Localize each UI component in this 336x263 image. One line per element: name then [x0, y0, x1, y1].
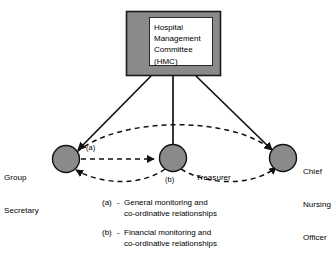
- legend-a-line-2: co-ordinative relationships: [124, 209, 217, 220]
- hmc-line-2: Management: [154, 33, 212, 44]
- legend-item-a: (a) - General monitoring and co-ordinati…: [102, 198, 282, 219]
- cno-line-1: Chief: [303, 166, 331, 177]
- node-label-chief-nursing-officer: Chief Nursing Officer: [303, 144, 331, 263]
- group-secretary-line-1: Group: [4, 172, 39, 183]
- legend-key-b: (b): [102, 228, 117, 239]
- node-label-treasurer: Treasurer: [196, 154, 231, 202]
- legend-dash-b: -: [117, 228, 124, 239]
- legend-text-a: General monitoring and co-ordinative rel…: [124, 198, 217, 219]
- hmc-line-1: Hospital: [154, 22, 212, 33]
- node-treasurer: [160, 145, 187, 172]
- legend: (a) - General monitoring and co-ordinati…: [102, 198, 282, 258]
- legend-text-b: Financial monitoring and co-ordinative r…: [124, 228, 217, 249]
- cno-line-2: Nursing: [303, 199, 331, 210]
- hmc-line-4: (HMC): [154, 56, 212, 67]
- edge-hmc-to-chief-nursing-officer: [196, 76, 272, 150]
- legend-a-line-1: General monitoring and: [124, 198, 217, 209]
- node-chief-nursing-officer: [270, 145, 297, 172]
- edge-lower-arc-treasurer-to-gs: [76, 169, 165, 182]
- edge-hmc-to-group-secretary: [78, 76, 151, 150]
- hmc-line-3: Committee: [154, 44, 212, 55]
- legend-b-line-1: Financial monitoring and: [124, 228, 217, 239]
- legend-item-b: (b) - Financial monitoring and co-ordina…: [102, 228, 282, 249]
- organisational-relationship-diagram: Hospital Management Committee (HMC) Grou…: [0, 0, 336, 263]
- cno-line-3: Officer: [303, 232, 331, 243]
- group-secretary-line-2: Secretary: [4, 205, 39, 216]
- edge-label-a: (a): [86, 143, 95, 153]
- edge-label-b: (b): [165, 175, 174, 185]
- hmc-label-plate: Hospital Management Committee (HMC): [149, 17, 213, 66]
- legend-key-a: (a): [102, 198, 117, 209]
- node-group-secretary: [53, 146, 80, 173]
- node-label-group-secretary: Group Secretary: [4, 150, 39, 238]
- legend-dash-a: -: [117, 198, 124, 209]
- legend-b-line-2: co-ordinative relationships: [124, 239, 217, 250]
- treasurer-line-1: Treasurer: [196, 173, 231, 183]
